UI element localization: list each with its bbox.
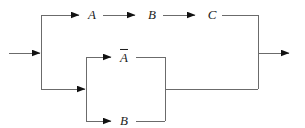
block-a-label: A bbox=[86, 8, 98, 21]
block-c-label: C bbox=[206, 8, 219, 21]
flow-block-diagram: A B C A B bbox=[0, 0, 305, 128]
block-b-label: B bbox=[146, 8, 158, 21]
wire-group bbox=[9, 15, 289, 121]
block-a-complement-label: A bbox=[118, 51, 130, 64]
block-b-lower-label: B bbox=[118, 114, 130, 127]
